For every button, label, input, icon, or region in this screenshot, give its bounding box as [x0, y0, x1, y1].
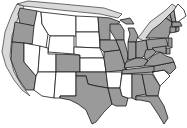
state-SD[interactable]	[76, 32, 100, 48]
state-FL[interactable]	[136, 96, 168, 124]
state-CO[interactable]	[56, 54, 80, 72]
state-ME[interactable]	[174, 4, 186, 22]
state-WI[interactable]	[110, 24, 124, 40]
state-AZ[interactable]	[34, 72, 56, 98]
state-AR[interactable]	[106, 72, 122, 88]
state-MA[interactable]	[172, 22, 182, 27]
state-NJ[interactable]	[168, 38, 172, 48]
state-KS[interactable]	[80, 58, 106, 72]
state-MS[interactable]	[120, 74, 132, 98]
state-CT[interactable]	[170, 27, 176, 33]
state-OR[interactable]	[12, 22, 35, 44]
state-NM[interactable]	[54, 72, 76, 98]
state-RI[interactable]	[176, 27, 179, 32]
state-WY[interactable]	[48, 36, 74, 54]
state-IN[interactable]	[128, 42, 136, 60]
map-svg	[0, 0, 187, 128]
state-DE[interactable]	[166, 48, 170, 54]
state-ND[interactable]	[76, 16, 99, 32]
us-choropleth-map	[0, 0, 187, 128]
